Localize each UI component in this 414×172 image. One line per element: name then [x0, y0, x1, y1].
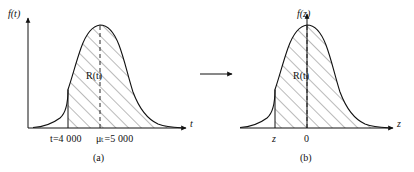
- panel-b-y-axis-label: f(z): [297, 8, 310, 19]
- panel-a-threshold-tick-label: t=4 000: [50, 134, 82, 144]
- panel-b-mean-tick-label: 0: [304, 134, 309, 144]
- panel-a-x-axis-label: t: [190, 118, 193, 129]
- panel-a-y-axis-label: f(t): [8, 8, 20, 19]
- panel-a-shaded-region: [60, 18, 190, 130]
- figure-canvas: [0, 0, 414, 172]
- panel-a-region-label: R(t): [86, 70, 102, 81]
- panel-b-region-label: R(t): [293, 70, 309, 81]
- panel-a: [28, 18, 190, 130]
- panel-b-shaded-region: [267, 18, 397, 130]
- panel-b: [240, 14, 397, 130]
- panel-b-threshold-tick-label: z: [272, 134, 276, 144]
- panel-b-x-axis-label: z: [397, 118, 401, 129]
- panel-a-caption: (a): [93, 152, 104, 163]
- panel-a-mean-tick-label: μₜ=5 000: [96, 134, 133, 144]
- panel-b-caption: (b): [300, 152, 312, 163]
- reliability-normal-distribution-figure: f(t) t R(t) t=4 000 μₜ=5 000 (a) f(z) z …: [0, 0, 414, 172]
